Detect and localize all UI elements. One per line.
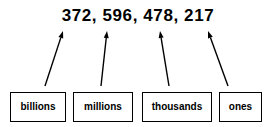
period-label-ones: ones — [229, 102, 252, 112]
period-box-billions: billions — [10, 92, 66, 122]
arrow-shaft-thousands — [161, 38, 169, 86]
arrow-shaft-ones — [210, 38, 228, 86]
arrow-head-billions — [58, 31, 63, 38]
period-box-thousands: thousands — [142, 92, 212, 122]
period-box-millions: millions — [73, 92, 133, 122]
arrow-head-ones — [208, 31, 213, 38]
arrow-shaft-millions — [101, 38, 106, 86]
arrow-shaft-billions — [45, 38, 61, 86]
period-label-thousands: thousands — [152, 102, 203, 112]
number-display: 372, 596, 478, 217 — [0, 6, 276, 26]
place-value-diagram: 372, 596, 478, 217 billions millions tho… — [0, 0, 276, 127]
period-label-millions: millions — [84, 102, 122, 112]
arrow-head-millions — [104, 31, 109, 38]
period-label-billions: billions — [21, 102, 56, 112]
arrow-head-thousands — [159, 31, 164, 38]
period-box-ones: ones — [219, 92, 262, 122]
